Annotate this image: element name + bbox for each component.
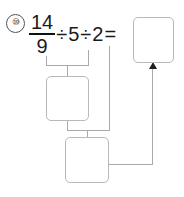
equals-sign: =: [104, 24, 116, 45]
operand-2-dropline: [109, 46, 110, 131]
bracket-top-right-tick: [88, 50, 89, 66]
math-expression: 14 9 ÷ 5 ÷ 2 =: [29, 12, 116, 57]
arrow-into-result-icon: [149, 62, 157, 69]
result-riser: [152, 69, 153, 165]
division-operator-1: ÷: [56, 24, 67, 45]
answer-box-step-1[interactable]: [46, 76, 89, 121]
fraction-14-over-9: 14 9: [29, 12, 55, 57]
fraction-numerator: 14: [29, 12, 55, 33]
worksheet-problem: ⑩ 14 9 ÷ 5 ÷ 2 =: [0, 0, 184, 197]
answer-box-step-2[interactable]: [65, 137, 109, 183]
division-operator-2: ÷: [80, 24, 91, 45]
step2-output-run: [108, 164, 153, 165]
answer-box-result[interactable]: [133, 17, 174, 63]
bracket-mid-span: [67, 130, 110, 131]
operand-2: 2: [92, 24, 103, 45]
operand-5: 5: [68, 24, 79, 45]
fraction-denominator: 9: [35, 35, 50, 56]
problem-number: ⑩: [6, 14, 25, 33]
